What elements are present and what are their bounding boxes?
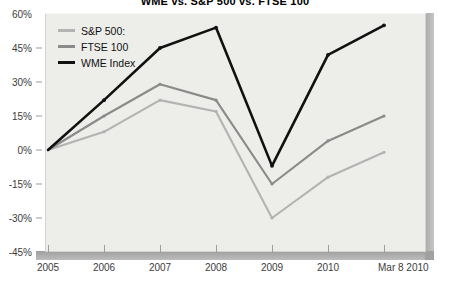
line-swatch-icon	[58, 61, 75, 64]
y-axis: 60%45%30%15%0%-15%-30%-45%	[0, 0, 45, 281]
x-axis-label: 2008	[205, 262, 227, 273]
y-axis-tick	[36, 116, 42, 117]
x-axis-label: 2009	[261, 262, 283, 273]
x-axis-label: Mar 8 2010	[378, 262, 429, 273]
x-axis-tick	[328, 245, 329, 252]
y-axis-tick	[36, 218, 42, 219]
panel-corner-shadow	[425, 251, 434, 260]
x-axis-label: 2010	[317, 262, 339, 273]
y-axis-tick	[36, 82, 42, 83]
panel-right-shadow	[425, 13, 434, 258]
legend-item[interactable]: WME Index	[58, 56, 135, 69]
x-axis-label: 2005	[37, 262, 59, 273]
legend-label: WME Index	[81, 57, 135, 69]
x-axis-tick	[216, 245, 217, 252]
y-axis-label: 60%	[12, 9, 32, 20]
line-swatch-icon	[58, 29, 75, 32]
x-axis-tick	[160, 245, 161, 252]
y-axis-label: 45%	[12, 43, 32, 54]
y-axis-label: 15%	[12, 111, 32, 122]
chart-legend: S&P 500:FTSE 100WME Index	[58, 24, 135, 69]
x-axis-label: 2007	[149, 262, 171, 273]
line-swatch-icon	[58, 45, 75, 48]
legend-item[interactable]: S&P 500:	[58, 24, 135, 37]
y-axis-tick	[36, 48, 42, 49]
y-axis-label: -15%	[9, 179, 32, 190]
x-axis-tick	[384, 245, 385, 252]
legend-item[interactable]: FTSE 100	[58, 40, 135, 53]
panel-bottom-shadow	[36, 251, 434, 260]
legend-label: S&P 500:	[81, 25, 125, 37]
y-axis-label: 30%	[12, 77, 32, 88]
legend-label: FTSE 100	[81, 41, 128, 53]
y-axis-label: 0%	[18, 145, 32, 156]
x-axis-tick	[48, 245, 49, 252]
y-axis-tick	[36, 184, 42, 185]
x-axis-label: 2006	[93, 262, 115, 273]
y-axis-tick	[36, 150, 42, 151]
chart-root: WME vs. S&P 500 vs. FTSE 100 60%45%30%15…	[0, 0, 450, 281]
x-axis-tick	[272, 245, 273, 252]
x-axis-tick	[104, 245, 105, 252]
y-axis-label: -30%	[9, 213, 32, 224]
plot-area-highlight	[45, 13, 426, 14]
y-axis-label: -45%	[9, 247, 32, 258]
chart-title: WME vs. S&P 500 vs. FTSE 100	[0, 0, 450, 7]
